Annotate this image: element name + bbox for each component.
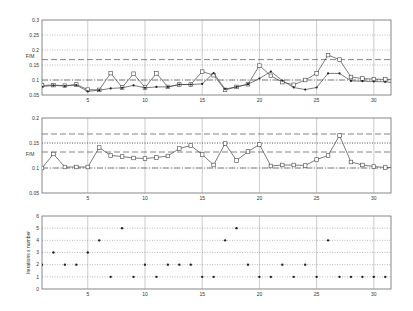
square-marker xyxy=(63,165,67,169)
square-marker xyxy=(40,166,44,170)
square-marker xyxy=(372,77,376,81)
dot-marker xyxy=(98,89,100,91)
dot-marker xyxy=(373,80,375,82)
dot-marker xyxy=(110,87,112,89)
dot-marker xyxy=(178,83,180,85)
middle-chart: 510152025300.050.10.150.2F/M xyxy=(26,115,399,201)
x-tick-label: 25 xyxy=(314,291,320,297)
dot-marker xyxy=(201,83,203,85)
square-marker xyxy=(280,163,284,167)
scatter-point xyxy=(41,263,43,265)
scatter-point xyxy=(167,263,169,265)
scatter-point xyxy=(384,276,386,278)
scatter-point xyxy=(315,276,317,278)
scatter-point xyxy=(350,276,352,278)
x-tick-label: 5 xyxy=(86,195,89,201)
scatter-point xyxy=(281,263,283,265)
y-tick-label: 5 xyxy=(36,225,39,231)
y-tick-label: 3 xyxy=(36,249,39,255)
scatter-point xyxy=(121,227,123,229)
dot-marker xyxy=(304,89,306,91)
dot-marker xyxy=(258,77,260,79)
x-tick-label: 5 xyxy=(86,291,89,297)
square-marker xyxy=(235,159,239,163)
y-tick-label: 2 xyxy=(36,261,39,267)
square-marker xyxy=(349,160,353,164)
square-marker xyxy=(292,83,296,87)
square-marker xyxy=(132,156,136,160)
dot-marker xyxy=(281,80,283,82)
x-tick-label: 30 xyxy=(371,97,377,103)
x-tick-label: 15 xyxy=(199,97,205,103)
y-tick-label: 0.15 xyxy=(29,62,39,68)
scatter-point xyxy=(201,276,203,278)
scatter-point xyxy=(190,263,192,265)
dot-marker xyxy=(361,80,363,82)
dot-marker xyxy=(64,85,66,87)
dot-marker xyxy=(293,86,295,88)
dot-marker xyxy=(167,86,169,88)
square-marker xyxy=(212,163,216,167)
dot-marker xyxy=(338,72,340,74)
x-tick-label: 15 xyxy=(199,291,205,297)
x-tick-label: 20 xyxy=(257,195,263,201)
y-tick-label: 0.25 xyxy=(29,32,39,38)
square-marker xyxy=(395,78,399,82)
dot-marker xyxy=(316,86,318,88)
square-marker xyxy=(338,58,342,62)
dot-marker xyxy=(384,81,386,83)
x-tick-label: 30 xyxy=(371,195,377,201)
scatter-point xyxy=(373,276,375,278)
x-tick-label: 10 xyxy=(142,97,148,103)
square-marker xyxy=(223,142,227,146)
scatter-point xyxy=(98,239,100,241)
y-tick-label: 0.05 xyxy=(29,190,39,196)
y-tick-label: 0.1 xyxy=(32,77,39,83)
dot-marker xyxy=(247,83,249,85)
scatter-point xyxy=(109,276,111,278)
square-marker xyxy=(178,147,182,151)
square-marker xyxy=(315,72,319,76)
scatter-point xyxy=(258,276,260,278)
scatter-point xyxy=(270,276,272,278)
x-tick-label: 15 xyxy=(199,195,205,201)
plot-area xyxy=(42,216,391,289)
square-marker xyxy=(303,78,307,82)
square-marker xyxy=(120,155,124,159)
dot-marker xyxy=(213,72,215,74)
square-marker xyxy=(303,164,307,168)
square-marker xyxy=(86,165,90,169)
scatter-point xyxy=(212,276,214,278)
square-marker xyxy=(361,163,365,167)
square-marker xyxy=(269,74,273,78)
y-tick-label: 1 xyxy=(36,274,39,280)
dot-marker xyxy=(144,87,146,89)
square-marker xyxy=(109,154,113,158)
y-axis-label: F/M xyxy=(26,151,35,157)
scatter-point xyxy=(304,263,306,265)
dot-marker xyxy=(396,82,398,84)
y-tick-label: 0 xyxy=(36,286,39,292)
scatter-point xyxy=(327,239,329,241)
square-marker xyxy=(338,134,342,138)
dot-marker xyxy=(121,87,123,89)
x-tick-label: 20 xyxy=(257,97,263,103)
scatter-point xyxy=(235,227,237,229)
scatter-point xyxy=(361,276,363,278)
y-axis-label: F/M xyxy=(26,53,35,59)
square-marker xyxy=(383,78,387,82)
y-tick-label: 6 xyxy=(36,213,39,219)
square-marker xyxy=(246,150,250,154)
square-marker xyxy=(75,165,79,169)
dot-marker xyxy=(235,86,237,88)
square-marker xyxy=(200,153,204,157)
square-marker xyxy=(258,64,262,68)
scatter-point xyxy=(52,251,54,253)
square-marker xyxy=(155,72,159,76)
square-marker xyxy=(292,163,296,167)
dot-marker xyxy=(52,84,54,86)
square-marker xyxy=(361,77,365,81)
scatter-point xyxy=(87,251,89,253)
scatter-point xyxy=(144,263,146,265)
square-marker xyxy=(326,53,330,57)
